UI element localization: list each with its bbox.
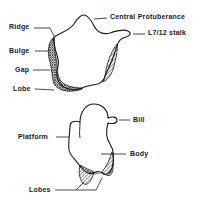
label-bulge: Bulge bbox=[9, 47, 29, 55]
label-lobe: Lobe bbox=[13, 85, 31, 93]
ribosome-diagram: Ridge Bulge Gap Lobe Central Protuberanc… bbox=[0, 0, 202, 201]
label-gap: Gap bbox=[15, 66, 29, 74]
label-bill: Bill bbox=[133, 116, 145, 124]
right-lobe-shading bbox=[102, 152, 114, 176]
small-subunit-shape bbox=[69, 104, 117, 184]
central-protuberance-leader bbox=[94, 18, 107, 19]
label-lobes: Lobes bbox=[29, 186, 51, 194]
label-stalk: L7/12 stalk bbox=[148, 29, 186, 37]
large-subunit-shape bbox=[48, 15, 130, 91]
label-platform: Platform bbox=[18, 133, 48, 141]
label-central-protuberance: Central Protuberance bbox=[110, 13, 185, 21]
label-body: Body bbox=[130, 150, 148, 158]
lobe-leader bbox=[35, 89, 54, 90]
lobe-shading bbox=[48, 37, 82, 91]
label-ridge: Ridge bbox=[9, 23, 29, 31]
lobes-leader bbox=[55, 178, 102, 190]
bottom-leader-lines bbox=[55, 120, 130, 190]
large-subunit-outline bbox=[54, 15, 131, 89]
